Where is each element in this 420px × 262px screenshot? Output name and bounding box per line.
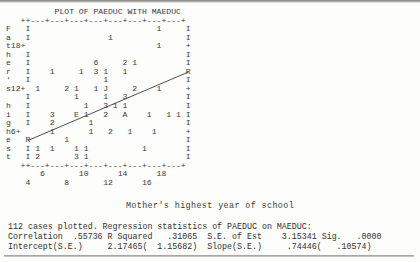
stats-line-correlation: Correlation .55736 R Squared .31065 S.E.… bbox=[8, 232, 381, 241]
ascii-scatterplot: PLOT OF PAEDUC WITH MAEDUC ++---+---+---… bbox=[6, 8, 191, 187]
plot-sheet: PLOT OF PAEDUC WITH MAEDUC ++---+---+---… bbox=[0, 3, 420, 262]
stats-line-intercept: Intercept(S.E.) 2.17465( 1.15682) Slope(… bbox=[8, 242, 371, 251]
stats-line-cases: 112 cases plotted. Regression statistics… bbox=[8, 222, 312, 231]
footer-rule bbox=[4, 255, 414, 257]
regression-statistics: 112 cases plotted. Regression statistics… bbox=[8, 222, 381, 252]
x-axis-tick-labels: 4 8 12 16 bbox=[6, 179, 191, 188]
x-axis-title: Mother's highest year of school bbox=[0, 201, 420, 211]
